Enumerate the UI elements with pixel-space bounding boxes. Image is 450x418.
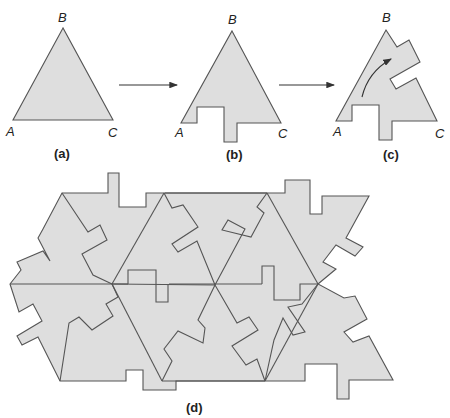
vertex-c-label: C <box>435 126 445 141</box>
notched-triangle-c <box>336 30 437 140</box>
triangle-a <box>13 28 113 120</box>
vertex-a-label: A <box>5 124 15 139</box>
caption-c: (c) <box>383 147 399 162</box>
panel-d-tessellation: (d) <box>10 173 393 415</box>
tessellation-outline <box>10 173 393 399</box>
panel-c: B A C (c) <box>332 10 445 162</box>
vertex-c-label: C <box>108 125 118 140</box>
vertex-b-label: B <box>382 10 391 25</box>
caption-b: (b) <box>226 147 243 162</box>
diagram-canvas: B A C (a) B A C (b) B A C (c) <box>0 0 450 418</box>
caption-a: (a) <box>54 146 70 161</box>
vertex-a-label: A <box>174 125 184 140</box>
notched-triangle-b <box>181 31 281 142</box>
vertex-b-label: B <box>58 10 67 25</box>
vertex-a-label: A <box>332 124 342 139</box>
vertex-c-label: C <box>278 126 288 141</box>
caption-d: (d) <box>186 400 203 415</box>
panel-b: B A C (b) <box>174 12 288 162</box>
vertex-b-label: B <box>228 12 237 27</box>
panel-a: B A C (a) <box>5 10 118 161</box>
